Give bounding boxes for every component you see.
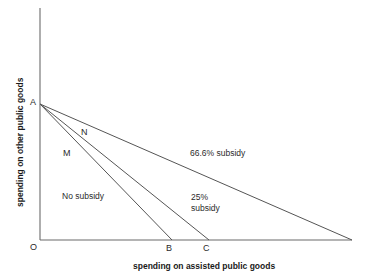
no-subsidy-annotation: No subsidy — [62, 191, 104, 201]
y-axis-title: spending on other public goods — [15, 78, 25, 207]
budget-constraint-figure: O A M N B C No subsidy 66.6% subsidy 25%… — [0, 0, 370, 280]
x-axis-title: spending on assisted public goods — [133, 261, 275, 271]
point-label-O: O — [30, 242, 37, 252]
point-label-A: A — [30, 97, 36, 107]
budget-lines-group — [40, 104, 352, 240]
point-label-N: N — [81, 127, 88, 137]
plot-canvas — [0, 0, 370, 280]
subsidy-66-annotation: 66.6% subsidy — [190, 148, 245, 158]
subsidy-25-annotation-word: subsidy — [191, 203, 220, 213]
25-subsidy-line — [40, 104, 209, 240]
no-subsidy-line — [40, 104, 172, 240]
point-label-B: B — [166, 243, 172, 253]
66-subsidy-line — [40, 104, 352, 240]
subsidy-25-annotation-percent: 25% — [191, 192, 208, 202]
point-label-C: C — [203, 243, 210, 253]
point-label-M: M — [63, 148, 71, 158]
